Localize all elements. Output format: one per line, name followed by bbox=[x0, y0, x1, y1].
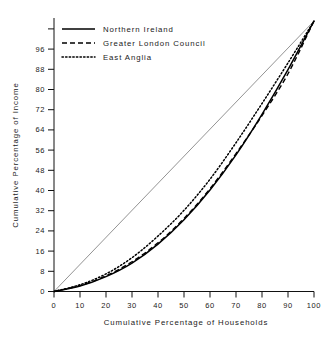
y-tick-label: 80 bbox=[35, 85, 45, 94]
y-tick-label: 96 bbox=[35, 45, 45, 54]
y-axis-ticks bbox=[48, 29, 54, 292]
x-tick-label: 100 bbox=[307, 301, 321, 310]
x-tick-label: 80 bbox=[257, 301, 267, 310]
y-axis-tick-labels: 0 8 16 24 32 40 48 56 64 72 80 88 96 bbox=[35, 45, 45, 296]
legend-label-greater-london-council: Greater London Council bbox=[103, 39, 206, 48]
x-tick-label: 10 bbox=[75, 301, 85, 310]
x-tick-label: 40 bbox=[153, 301, 163, 310]
x-tick-label: 60 bbox=[205, 301, 215, 310]
x-axis-title: Cumulative Percentage of Households bbox=[104, 318, 269, 327]
x-tick-label: 30 bbox=[127, 301, 137, 310]
legend-label-northern-ireland: Northern Ireland bbox=[103, 25, 174, 34]
y-tick-label: 72 bbox=[35, 105, 45, 114]
y-tick-label: 32 bbox=[35, 206, 45, 215]
x-tick-label: 20 bbox=[101, 301, 111, 310]
y-tick-label: 48 bbox=[35, 166, 45, 175]
chart-canvas: 0 8 16 24 32 40 48 56 64 72 80 88 96 bbox=[0, 0, 335, 337]
y-tick-label: 88 bbox=[35, 65, 45, 74]
y-tick-label: 8 bbox=[40, 267, 45, 276]
y-tick-label: 40 bbox=[35, 186, 45, 195]
y-tick-label: 56 bbox=[35, 146, 45, 155]
x-tick-label: 0 bbox=[52, 301, 57, 310]
x-tick-label: 90 bbox=[283, 301, 293, 310]
y-tick-label: 64 bbox=[35, 125, 45, 134]
y-tick-label: 16 bbox=[35, 247, 45, 256]
line-of-equality bbox=[54, 21, 314, 292]
x-axis-tick-labels: 0 10 20 30 40 50 60 70 80 90 100 bbox=[52, 301, 322, 310]
x-axis-ticks bbox=[54, 292, 314, 298]
lorenz-curve-chart: 0 8 16 24 32 40 48 56 64 72 80 88 96 bbox=[0, 0, 335, 337]
chart-legend: Northern Ireland Greater London Council … bbox=[62, 25, 206, 62]
y-tick-label: 0 bbox=[40, 287, 45, 296]
x-tick-label: 50 bbox=[179, 301, 189, 310]
y-axis-title: Cumulative Percentage of Income bbox=[11, 82, 20, 227]
x-tick-label: 70 bbox=[231, 301, 241, 310]
y-tick-label: 24 bbox=[35, 226, 45, 235]
legend-label-east-anglia: East Anglia bbox=[103, 53, 152, 62]
